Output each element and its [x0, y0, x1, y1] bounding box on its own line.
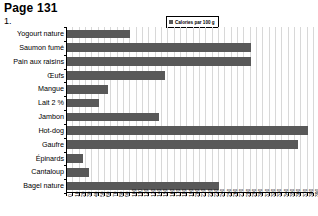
y-axis-category-label: Hot-dog — [2, 124, 64, 138]
y-axis-category-label: Yogourt nature — [2, 27, 64, 41]
bar — [67, 154, 83, 163]
bar-row — [67, 96, 314, 110]
x-axis-tick-label: 220 — [208, 189, 213, 197]
x-axis-tick-label: 10 — [75, 191, 80, 197]
x-axis-tick-label: 160 — [170, 189, 175, 197]
x-axis-tick-label: 390 — [315, 189, 318, 197]
x-axis-tick-label: 310 — [265, 189, 270, 197]
x-axis-tick-label: 300 — [258, 189, 263, 197]
square-swatch-icon — [169, 20, 173, 24]
x-axis-tick-label: 130 — [151, 189, 156, 197]
bar — [67, 43, 251, 52]
y-axis-category-label: Jambon — [2, 110, 64, 124]
y-axis-category-label: Gaufre — [2, 138, 64, 152]
x-axis-tick-label: 340 — [284, 189, 289, 197]
bar — [67, 99, 99, 108]
bar — [67, 113, 159, 122]
y-axis-category-label: Pain aux raisins — [2, 55, 64, 69]
question-number: 1. — [4, 16, 12, 26]
x-axis-tick-label: 90 — [125, 191, 130, 197]
x-axis-tick-label: 100 — [132, 189, 137, 197]
x-axis-tick-label: 70 — [113, 191, 118, 197]
x-axis-tick-label: 180 — [182, 189, 187, 197]
bar-row — [67, 138, 314, 152]
bar-chart: 0102030405060708090100110120130140150160… — [66, 27, 313, 193]
x-axis-tick-label: 30 — [87, 191, 92, 197]
x-axis-tick-label: 190 — [189, 189, 194, 197]
bar — [67, 85, 108, 94]
y-axis-category-label: Bagel nature — [2, 179, 64, 193]
bar — [67, 126, 308, 135]
bar-row — [67, 152, 314, 166]
bar-row — [67, 82, 314, 96]
x-axis-tick-label: 150 — [163, 189, 168, 197]
y-axis-category-label: Mangue — [2, 82, 64, 96]
x-axis-tick-label: 60 — [106, 191, 111, 197]
bar — [67, 57, 251, 66]
bar-row — [67, 55, 314, 69]
bar — [67, 168, 89, 177]
bar-row — [67, 124, 314, 138]
page-container: Page 131 1. Calories par 100 g 010203040… — [0, 0, 318, 216]
x-axis-tick-label: 330 — [277, 189, 282, 197]
x-axis-tick-label: 240 — [220, 189, 225, 197]
bar — [67, 140, 298, 149]
y-axis-category-label: Épinards — [2, 152, 64, 166]
y-axis-category-label: Saumon fumé — [2, 41, 64, 55]
x-axis-tick-label: 250 — [227, 189, 232, 197]
bar-row — [67, 41, 314, 55]
x-axis-tick-label: 270 — [239, 189, 244, 197]
x-axis-tick-label: 40 — [94, 191, 99, 197]
legend-label: Calories par 100 g — [175, 20, 215, 25]
x-axis-tick-label: 0 — [68, 194, 73, 197]
bar-row — [67, 69, 314, 83]
bar — [67, 71, 165, 80]
page-title: Page 131 — [4, 1, 58, 15]
bar-row — [67, 27, 314, 41]
x-axis-tick-label: 370 — [303, 189, 308, 197]
y-axis-category-label: Œufs — [2, 69, 64, 83]
bar-row — [67, 110, 314, 124]
x-axis-tick-label: 280 — [246, 189, 251, 197]
bar-row — [67, 165, 314, 179]
x-axis-tick-label: 120 — [144, 189, 149, 197]
y-axis-category-label: Lait 2 % — [2, 96, 64, 110]
y-axis-category-label: Cantaloup — [2, 165, 64, 179]
bar — [67, 30, 130, 39]
x-axis-tick-label: 210 — [201, 189, 206, 197]
x-axis-tick-label: 360 — [296, 189, 301, 197]
